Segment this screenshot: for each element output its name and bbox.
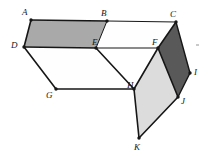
vertex-dot-g	[54, 87, 57, 90]
vertex-dot-k	[137, 136, 140, 139]
edge-AB	[31, 20, 107, 21]
vertex-label-c: C	[170, 10, 176, 19]
vertex-label-j: J	[181, 97, 185, 106]
vertex-dot-d	[22, 45, 25, 48]
vertex-dot-j	[176, 95, 179, 98]
vertex-label-e: E	[92, 38, 98, 47]
vertex-label-g: G	[46, 91, 53, 100]
vertex-label-a: A	[22, 8, 28, 17]
vertex-dot-b	[105, 19, 108, 22]
vertex-label-b: B	[101, 9, 107, 18]
speck-right-margin	[196, 44, 199, 46]
vertex-label-i: I	[194, 68, 197, 77]
geometry-diagram	[0, 0, 212, 159]
vertex-dot-c	[174, 20, 177, 23]
vertex-label-f: F	[152, 38, 158, 47]
figure-canvas: ABCDEFGHIJK	[0, 0, 212, 159]
vertex-label-h: H	[127, 81, 134, 90]
vertex-label-k: K	[134, 143, 140, 152]
edge-DE	[24, 47, 96, 48]
vertex-label-d: D	[11, 41, 18, 50]
vertex-dot-i	[188, 71, 191, 74]
vertex-dot-a	[29, 18, 32, 21]
